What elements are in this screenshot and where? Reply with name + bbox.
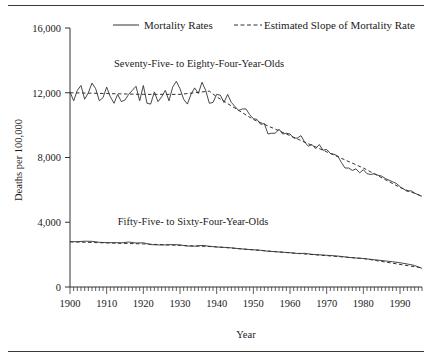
series-line (70, 91, 422, 196)
series-line (70, 242, 422, 268)
x-axis-tick-label: 1960 (280, 298, 301, 309)
legend-label-mortality-rates: Mortality Rates (144, 19, 213, 31)
x-axis-tick-label: 1940 (206, 298, 227, 309)
x-axis-tick-label: 1910 (96, 298, 117, 309)
chart-series (70, 81, 422, 268)
x-axis-tick-label: 1990 (390, 298, 411, 309)
y-axis: 04,0008,00012,00016,000 (32, 23, 70, 293)
x-axis-title: Year (236, 329, 256, 340)
y-axis-tick-label: 4,000 (37, 217, 61, 228)
y-axis-tick-label: 12,000 (32, 88, 61, 99)
mortality-rates-chart: Mortality Rates Estimated Slope of Morta… (0, 0, 432, 361)
y-axis-tick-label: 16,000 (32, 23, 61, 34)
y-axis-tick-label: 0 (56, 282, 61, 293)
y-axis-tick-label: 8,000 (37, 152, 61, 163)
x-axis-tick-label: 1980 (353, 298, 374, 309)
series-annotation: Fifty-Five- to Sixty-Four-Year-Olds (118, 216, 269, 227)
x-axis-tick-label: 1950 (243, 298, 264, 309)
x-axis-tick-label: 1970 (316, 298, 337, 309)
series-annotation: Seventy-Five- to Eighty-Four-Year-Olds (114, 58, 284, 69)
legend-label-estimated-slope: Estimated Slope of Mortality Rate (264, 19, 415, 31)
series-line (70, 241, 422, 268)
x-axis-tick-label: 1920 (133, 298, 154, 309)
x-axis-tick-label: 1900 (60, 298, 81, 309)
chart-legend: Mortality Rates Estimated Slope of Morta… (113, 19, 415, 31)
figure-container: Mortality Rates Estimated Slope of Morta… (0, 0, 432, 361)
x-axis: 1900191019201930194019501960197019801990 (60, 287, 423, 309)
y-axis-title: Deaths per 100,000 (13, 119, 24, 201)
chart-annotations: Seventy-Five- to Eighty-Four-Year-OldsFi… (114, 58, 284, 227)
x-axis-tick-label: 1930 (170, 298, 191, 309)
series-line (70, 81, 422, 196)
